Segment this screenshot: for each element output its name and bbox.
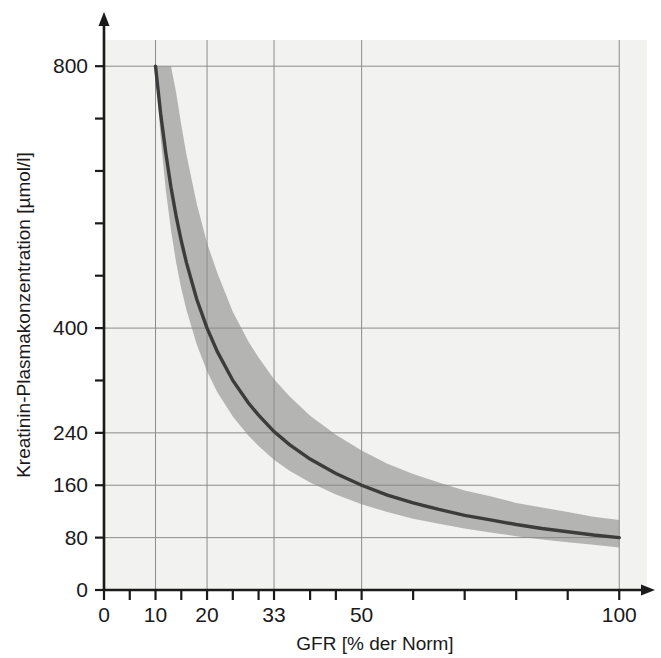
x-tick-label: 50 [350, 603, 373, 626]
y-tick-label: 400 [53, 316, 88, 339]
x-tick-label: 33 [262, 603, 285, 626]
x-axis-title: GFR [% der Norm] [296, 633, 453, 654]
x-axis-tick-labels: 010203350100 [98, 603, 637, 626]
x-axis-ticks [104, 590, 619, 600]
y-tick-label: 80 [65, 526, 88, 549]
y-tick-label: 160 [53, 473, 88, 496]
y-axis-arrow-icon [99, 12, 110, 26]
y-tick-label: 800 [53, 54, 88, 77]
y-axis-tick-labels: 080160240400800 [53, 54, 88, 601]
y-axis-title: Kreatinin-Plasmakonzentration [µmol/l] [13, 152, 34, 478]
x-axis-arrow-icon [641, 585, 655, 596]
x-tick-label: 10 [144, 603, 167, 626]
creatinine-gfr-chart: 080160240400800 010203350100 GFR [% der … [0, 0, 661, 658]
y-axis-ticks [95, 66, 104, 590]
x-tick-label: 0 [98, 603, 110, 626]
x-tick-label: 20 [195, 603, 218, 626]
y-tick-label: 240 [53, 421, 88, 444]
x-tick-label: 100 [602, 603, 637, 626]
y-tick-label: 0 [76, 578, 88, 601]
chart-figure: 080160240400800 010203350100 GFR [% der … [0, 0, 661, 658]
